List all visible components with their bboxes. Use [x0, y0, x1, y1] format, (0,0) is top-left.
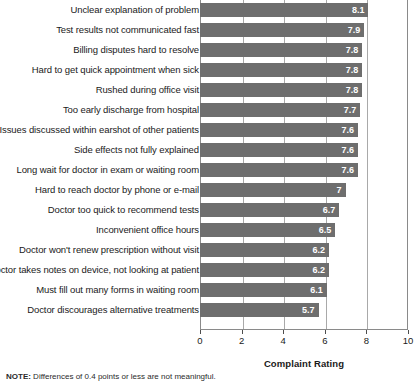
bar-value-label: 7.9 — [348, 23, 361, 37]
x-tick-label: 10 — [403, 335, 414, 346]
bar: 6.5 — [200, 223, 335, 237]
bar-category-label: Inconvenient office hours — [96, 220, 199, 240]
bar-row: Unclear explanation of problem8.1 — [0, 0, 420, 20]
bar-category-label: Issues discussed within earshot of other… — [0, 120, 199, 140]
bar-category-label: Must fill out many forms in waiting room — [36, 280, 199, 300]
bar-value-label: 6.2 — [312, 243, 325, 257]
bar: 6.2 — [200, 263, 329, 277]
bar: 7.9 — [200, 23, 364, 37]
bar-row: Doctor takes notes on device, not lookin… — [0, 260, 420, 280]
bar-category-label: Long wait for doctor in exam or waiting … — [16, 160, 199, 180]
bar-category-label: Test results not communicated fast — [56, 20, 199, 40]
bar-category-label: Hard to get quick appointment when sick — [32, 60, 199, 80]
bar-category-label: Doctor takes notes on device, not lookin… — [0, 260, 199, 280]
bar-value-label: 8.1 — [352, 3, 365, 17]
bar: 6.7 — [200, 203, 339, 217]
bar-row: Rushed during office visit7.8 — [0, 80, 420, 100]
bar-category-label: Side effects not fully explained — [74, 140, 199, 160]
bar-category-label: Hard to reach doctor by phone or e-mail — [35, 180, 199, 200]
bar-category-label: Unclear explanation of problem — [71, 0, 200, 20]
bar-rows: Unclear explanation of problem8.1Test re… — [0, 0, 420, 320]
x-tick-label: 4 — [281, 335, 286, 346]
bar: 6.1 — [200, 283, 327, 297]
x-axis-title: Complaint Rating — [200, 358, 408, 369]
bar: 7.6 — [200, 163, 358, 177]
x-tick-2 — [242, 330, 243, 334]
bar-value-label: 5.7 — [302, 303, 315, 317]
bar: 7.7 — [200, 103, 360, 117]
bar-row: Billing disputes hard to resolve7.8 — [0, 40, 420, 60]
bar: 7.8 — [200, 63, 362, 77]
complaint-rating-bar-chart: Unclear explanation of problem8.1Test re… — [0, 0, 420, 384]
x-tick-6 — [325, 330, 326, 334]
bar-row: Long wait for doctor in exam or waiting … — [0, 160, 420, 180]
x-tick-label: 0 — [197, 335, 202, 346]
bar-value-label: 7.8 — [346, 63, 359, 77]
bar-value-label: 7.8 — [346, 83, 359, 97]
bar-value-label: 7.6 — [342, 163, 355, 177]
bar: 6.2 — [200, 243, 329, 257]
bar: 7.6 — [200, 123, 358, 137]
bar-value-label: 6.7 — [323, 203, 336, 217]
bar-category-label: Doctor discourages alternative treatment… — [27, 300, 199, 320]
bar: 7.6 — [200, 143, 358, 157]
bar-value-label: 7.8 — [346, 43, 359, 57]
bar-row: Must fill out many forms in waiting room… — [0, 280, 420, 300]
chart-note: NOTE: Differences of 0.4 points or less … — [6, 372, 216, 381]
bar-category-label: Doctor too quick to recommend tests — [48, 200, 199, 220]
bar-value-label: 6.1 — [310, 283, 323, 297]
x-tick-label: 8 — [364, 335, 369, 346]
bar: 8.1 — [200, 3, 368, 17]
bar-category-label: Rushed during office visit — [96, 80, 199, 100]
bar-row: Doctor discourages alternative treatment… — [0, 300, 420, 320]
bar-row: Issues discussed within earshot of other… — [0, 120, 420, 140]
bar-row: Hard to reach doctor by phone or e-mail7 — [0, 180, 420, 200]
bar-row: Hard to get quick appointment when sick7… — [0, 60, 420, 80]
bar-value-label: 7.7 — [344, 103, 357, 117]
x-tick-10 — [408, 330, 409, 334]
bar: 7.8 — [200, 43, 362, 57]
bar-value-label: 6.5 — [319, 223, 332, 237]
bar: 7 — [200, 183, 346, 197]
bar-row: Doctor too quick to recommend tests6.7 — [0, 200, 420, 220]
bar: 5.7 — [200, 303, 319, 317]
bar-row: Side effects not fully explained7.6 — [0, 140, 420, 160]
bar-category-label: Doctor won't renew prescription without … — [19, 240, 199, 260]
bar-row: Test results not communicated fast7.9 — [0, 20, 420, 40]
bar-value-label: 7.6 — [342, 143, 355, 157]
x-tick-8 — [366, 330, 367, 334]
bar-value-label: 6.2 — [312, 263, 325, 277]
bar-row: Inconvenient office hours6.5 — [0, 220, 420, 240]
x-tick-label: 2 — [239, 335, 244, 346]
x-tick-0 — [200, 330, 201, 334]
chart-note-text: Differences of 0.4 points or less are no… — [31, 372, 216, 381]
x-axis: 0246810 — [200, 330, 408, 360]
x-tick-label: 6 — [322, 335, 327, 346]
bar-category-label: Too early discharge from hospital — [63, 100, 199, 120]
bar: 7.8 — [200, 83, 362, 97]
bar-value-label: 7 — [337, 183, 342, 197]
chart-note-prefix: NOTE: — [6, 372, 31, 381]
bar-category-label: Billing disputes hard to resolve — [73, 40, 199, 60]
bar-value-label: 7.6 — [342, 123, 355, 137]
bar-row: Doctor won't renew prescription without … — [0, 240, 420, 260]
bar-row: Too early discharge from hospital7.7 — [0, 100, 420, 120]
x-tick-4 — [283, 330, 284, 334]
